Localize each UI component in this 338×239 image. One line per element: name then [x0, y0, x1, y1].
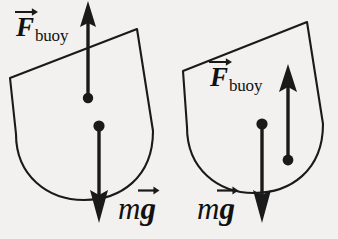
right-buoyant-force-symbol: F [210, 64, 229, 91]
left-weight-gravity-symbol: g [140, 193, 156, 224]
left-buoyant-force-vector [80, 1, 96, 103]
right-weight-gravity-symbol: g [219, 193, 235, 224]
left-buoyant-force-label: Fbuoy [16, 14, 68, 44]
left-center-of-buoyancy-dot [83, 93, 93, 103]
right-weight-gravity-letter: g [219, 191, 235, 226]
right-center-of-buoyancy-dot [283, 155, 294, 166]
left-weight-gravity-letter: g [140, 191, 156, 226]
right-weight-label: m g [197, 193, 235, 224]
right-weight-mass-letter: m [197, 191, 219, 226]
diagram-canvas: Fbuoy m g Fbuoy m g [0, 0, 338, 239]
left-hull-outline [10, 29, 153, 200]
left-buoyant-force-subscript: buoy [35, 26, 68, 45]
vector-arrow-icon [217, 185, 239, 194]
vector-arrow-icon [138, 185, 160, 194]
left-weight-force-vector [90, 120, 108, 223]
right-hull-outline [183, 22, 323, 193]
left-center-of-gravity-dot [93, 120, 104, 131]
right-buoyant-force-label: Fbuoy [210, 64, 262, 94]
left-weight-mass-letter: m [118, 191, 140, 226]
right-buoyant-force-vector [279, 64, 297, 165]
right-center-of-gravity-dot [256, 118, 267, 129]
right-weight-force-vector [253, 118, 271, 223]
vector-arrow-icon [209, 57, 232, 65]
vector-arrow-icon [15, 7, 38, 15]
right-buoyant-force-subscript: buoy [229, 76, 262, 95]
left-buoyant-force-letter: F [16, 12, 34, 42]
left-weight-label: m g [118, 193, 156, 224]
left-buoyant-force-symbol: F [16, 14, 35, 41]
right-buoyant-force-letter: F [210, 62, 228, 92]
